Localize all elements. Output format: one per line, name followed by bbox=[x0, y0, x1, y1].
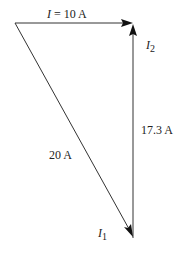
vector-I1 bbox=[15, 23, 129, 229]
label-I-eq: = 10 A bbox=[51, 7, 87, 21]
label-I2-value: 17.3 A bbox=[141, 123, 173, 137]
phasor-diagram: I = 10 A I2 17.3 A 20 A I1 bbox=[0, 0, 184, 258]
label-I: I = 10 A bbox=[46, 7, 87, 21]
arrowhead-I1 bbox=[124, 224, 133, 237]
label-I2: I2 bbox=[145, 38, 155, 54]
label-I1: I1 bbox=[97, 226, 107, 242]
label-I1-sub: 1 bbox=[102, 231, 107, 242]
label-I1-value: 20 A bbox=[49, 148, 72, 162]
label-I2-sub: 2 bbox=[150, 43, 155, 54]
